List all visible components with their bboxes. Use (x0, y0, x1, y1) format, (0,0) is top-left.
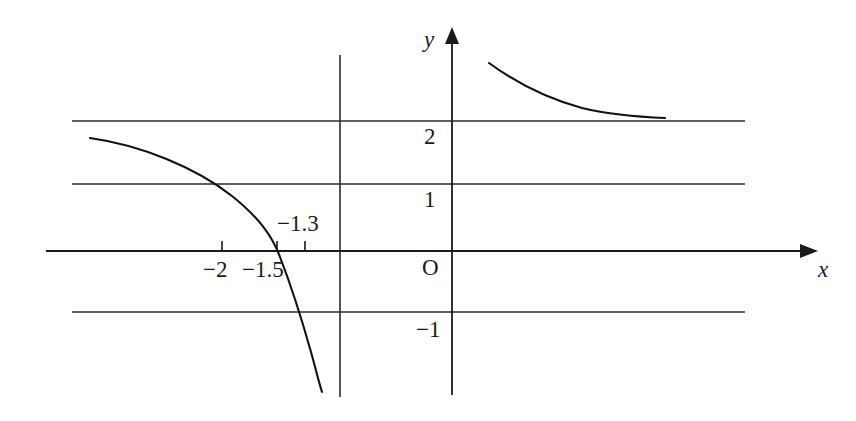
x-tick-label-neg-2: −2 (203, 258, 227, 281)
x-axis-arrowhead (800, 244, 818, 258)
x-tick-label-neg-1-3: −1.3 (277, 212, 319, 235)
x-axis-label: x (818, 258, 828, 281)
x-tick-label-neg-1-5: −1.5 (242, 258, 284, 281)
y-axis-arrowhead (445, 27, 459, 44)
origin-label: O (422, 256, 439, 279)
curve-right-branch (489, 63, 665, 118)
graph-figure: y x 2 1 O −1 −2 −1.5 −1.3 (0, 0, 856, 421)
y-axis-label: y (424, 28, 434, 51)
y-tick-label-1: 1 (424, 188, 436, 211)
y-tick-label-neg-1: −1 (416, 318, 440, 341)
y-tick-label-2: 2 (424, 125, 436, 148)
